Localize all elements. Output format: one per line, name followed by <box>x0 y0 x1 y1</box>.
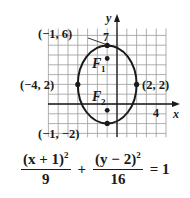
y-axis-arrow-icon <box>114 14 120 22</box>
fraction-x-term: (x + 1)2 9 <box>21 150 71 188</box>
focus-1-dot <box>105 56 110 61</box>
ellipse-equation: (x + 1)2 9 + (y − 2)2 16 = 1 <box>18 150 173 188</box>
ellipse-graph: y x 7 4 (−1, 6) (−4, 2) (2, 2) (−1, −2) … <box>0 0 190 150</box>
svg-text:2: 2 <box>101 97 106 107</box>
focus-2-dot <box>105 108 110 113</box>
bottom-vertex-label: (−1, −2) <box>38 127 79 141</box>
left-vertex-label: (−4, 2) <box>20 78 54 92</box>
top-vertex-label: (−1, 6) <box>38 27 72 41</box>
exponent-y: 2 <box>136 150 141 160</box>
right-vertex-dot <box>134 82 139 87</box>
numerator-x-text: (x + 1) <box>23 151 64 167</box>
svg-text:1: 1 <box>101 64 106 74</box>
denominator-x: 9 <box>42 170 50 188</box>
plus-sign: + <box>78 161 87 178</box>
fraction-y-term: (y − 2)2 16 <box>93 150 143 188</box>
y-axis-label: y <box>104 11 112 25</box>
exponent-x: 2 <box>64 150 69 160</box>
right-vertex-label: (2, 2) <box>142 78 169 92</box>
numerator-y: (y − 2)2 <box>93 150 143 170</box>
equals-one: = 1 <box>150 161 170 178</box>
left-vertex-dot <box>75 82 80 87</box>
x-axis-label: x <box>172 107 179 121</box>
y-axis <box>114 14 120 137</box>
numerator-x: (x + 1)2 <box>21 150 71 170</box>
bottom-vertex-dot <box>105 121 110 126</box>
denominator-y: 16 <box>110 170 125 188</box>
y-tick-label: 7 <box>103 30 109 44</box>
x-tick-label: 4 <box>153 106 159 120</box>
focus-1-label: F 1 <box>91 56 106 74</box>
numerator-y-text: (y − 2) <box>95 151 136 167</box>
